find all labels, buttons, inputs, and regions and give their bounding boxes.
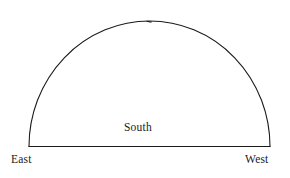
figure-root: East South West [0,0,290,178]
label-south: South [124,122,152,134]
label-east: East [11,154,32,166]
label-west: West [245,154,269,166]
figure-background [0,0,290,178]
semicircle-diagram-svg [0,0,290,178]
